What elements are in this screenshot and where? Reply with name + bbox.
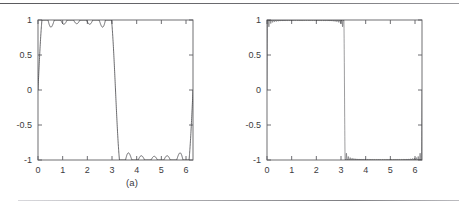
- a-xtick-label: 4: [134, 165, 139, 175]
- b-xtick-label: 6: [413, 165, 418, 175]
- b-curve: [267, 20, 422, 160]
- b-xtick-label: 3: [338, 165, 343, 175]
- a-curve: [38, 20, 193, 160]
- b-ytick-label: -1: [253, 155, 261, 165]
- b-ytick-label: 0: [256, 85, 261, 95]
- b-xtick-label: 0: [264, 165, 269, 175]
- b-ytick-label: 0.5: [248, 50, 261, 60]
- a-xtick-label: 3: [109, 165, 114, 175]
- b-xtick-label: 5: [388, 165, 393, 175]
- a-ytick-label: -0.5: [16, 120, 32, 130]
- a-xtick-label: 0: [35, 165, 40, 175]
- a-ytick-label: 1: [27, 15, 32, 25]
- bottom-horizontal-rule: [18, 200, 459, 201]
- plot-a: 0123456-1-0.500.51: [0, 0, 230, 175]
- a-ytick-label: 0.5: [19, 50, 32, 60]
- b-ytick-label: 1: [256, 15, 261, 25]
- plot-a-svg: 0123456-1-0.500.51: [0, 0, 230, 175]
- b-ytick-label: -0.5: [245, 120, 261, 130]
- a-ytick-label: -1: [24, 155, 32, 165]
- b-xtick-label: 4: [363, 165, 368, 175]
- figure-root: 0123456-1-0.500.51 (a) 0123456-1-0.500.5…: [0, 0, 459, 205]
- plot-b-svg: 0123456-1-0.500.51: [229, 0, 459, 175]
- a-xtick-label: 1: [60, 165, 65, 175]
- b-xtick-label: 2: [314, 165, 319, 175]
- a-ytick-label: 0: [27, 85, 32, 95]
- panel-a-caption: (a): [112, 177, 152, 188]
- panel-b: 0123456-1-0.500.51 (b): [229, 0, 459, 205]
- a-xtick-label: 5: [159, 165, 164, 175]
- panel-a: 0123456-1-0.500.51 (a): [0, 0, 230, 205]
- plot-b: 0123456-1-0.500.51: [229, 0, 459, 175]
- b-xtick-label: 1: [289, 165, 294, 175]
- a-xtick-label: 6: [184, 165, 189, 175]
- a-xtick-label: 2: [85, 165, 90, 175]
